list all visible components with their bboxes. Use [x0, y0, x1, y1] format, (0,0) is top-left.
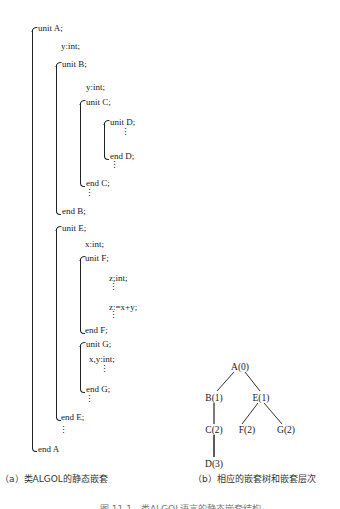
- tree-node-e: E(1): [253, 393, 270, 403]
- edge-e-f: [242, 403, 258, 424]
- tree-node-b: B(1): [205, 393, 222, 403]
- figure-caption: 图 11.1 类ALGOL语言的静态嵌套结构: [100, 503, 261, 509]
- edge-a-e: [245, 372, 260, 391]
- tree-node-a: A(0): [231, 362, 249, 372]
- tree-node-g: G(2): [277, 425, 295, 435]
- tree-node-f: F(2): [239, 425, 255, 435]
- edge-e-g: [264, 403, 282, 424]
- edge-a-b: [217, 372, 234, 391]
- tree-node-d: D(3): [205, 459, 223, 469]
- tree-node-c: C(2): [205, 425, 222, 435]
- caption-b: （b）相应的嵌套树和嵌套层次: [193, 474, 316, 485]
